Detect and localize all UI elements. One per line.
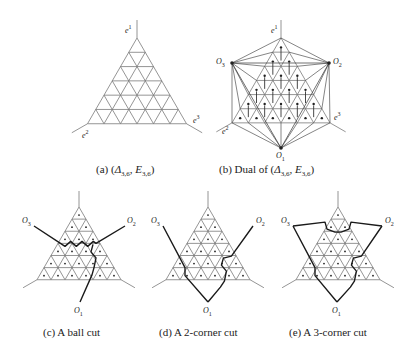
label-O2-c: O2 <box>127 216 136 227</box>
cell-dot <box>302 275 304 277</box>
label-e2-a: e2 <box>82 129 89 140</box>
ray-e2 <box>282 280 296 288</box>
grid-edge <box>72 219 107 280</box>
grid-edge <box>44 268 51 280</box>
grid-edge <box>366 268 373 280</box>
dual-vertex <box>255 117 257 119</box>
cell-dot <box>106 263 108 265</box>
cell-dot <box>85 275 87 277</box>
cell-dot <box>200 275 202 277</box>
cell-dot <box>207 263 209 265</box>
grid-edge <box>170 109 178 123</box>
ray-e3 <box>380 280 394 288</box>
cell-dot <box>71 275 73 277</box>
cell-dot <box>57 251 59 253</box>
dual-edge-O1 <box>281 123 314 148</box>
cell-dot <box>78 214 80 216</box>
cell-dot <box>323 238 325 240</box>
cell-dot <box>358 251 360 253</box>
dual-edge-O2 <box>297 63 329 66</box>
ray-e3 <box>187 124 203 133</box>
cell-dot <box>193 263 195 265</box>
grid-edge <box>240 109 248 123</box>
cell-dot <box>92 263 94 265</box>
cell-dot <box>78 238 80 240</box>
cell-dot <box>193 238 195 240</box>
cell-dot <box>78 263 80 265</box>
grid-edge <box>107 268 114 280</box>
grid-edge <box>96 109 104 123</box>
cell-dot <box>179 263 181 265</box>
outer-vertex-O2 <box>327 61 331 65</box>
dual-edge-O2 <box>329 63 330 123</box>
dual-vertex <box>280 103 282 105</box>
dual-vertex <box>288 60 290 62</box>
cell-dot <box>50 263 52 265</box>
cell-dot <box>57 275 59 277</box>
cell-dot <box>200 226 202 228</box>
label-O2-e: O2 <box>385 216 394 227</box>
cell-dot <box>242 275 244 277</box>
cell-dot <box>358 275 360 277</box>
cell-dot <box>207 214 209 216</box>
cell-dot <box>344 275 346 277</box>
grid-edge <box>173 268 180 280</box>
caption-c: (c) A ball cut <box>43 326 100 338</box>
label-O1-d: O1 <box>203 306 212 317</box>
cell-dot <box>214 251 216 253</box>
ray-e3 <box>250 280 264 288</box>
cell-dot <box>330 275 332 277</box>
cell-dot <box>99 275 101 277</box>
cell-dot <box>207 238 209 240</box>
ray-e2 <box>23 280 37 288</box>
cell-dot <box>71 226 73 228</box>
grid-edge <box>314 109 322 123</box>
label-e1-a: e1 <box>125 24 132 35</box>
dual-vertex <box>272 60 274 62</box>
cell-dot <box>64 238 66 240</box>
dual-vertex <box>321 117 323 119</box>
dual-vertex <box>239 117 241 119</box>
dual-edge-O1 <box>248 123 281 148</box>
label-e2-b: e2 <box>222 125 229 136</box>
cell-dot <box>200 251 202 253</box>
label-e3-a: e3 <box>193 114 200 125</box>
dual-vertex <box>280 75 282 77</box>
dual-vertex <box>272 89 274 91</box>
dual-vertex <box>304 89 306 91</box>
ray-e3 <box>330 123 346 132</box>
label-O3-b: O3 <box>216 57 225 68</box>
dual-vertex <box>304 117 306 119</box>
dual-edge <box>281 63 329 148</box>
label-O3-c: O3 <box>22 216 31 227</box>
grid-edge <box>303 268 310 280</box>
dual-edge-O2 <box>306 63 330 80</box>
cell-dot <box>365 263 367 265</box>
cell-dot <box>43 275 45 277</box>
grid-edge <box>331 219 366 280</box>
caption-d: (d) A 2-corner cut <box>159 326 238 338</box>
label-O2-b: O2 <box>333 57 342 68</box>
cell-dot <box>351 238 353 240</box>
cell-dot <box>186 251 188 253</box>
dual-vertex <box>263 103 265 105</box>
cell-dot <box>113 275 115 277</box>
grid-edge <box>104 52 145 123</box>
label-O3-d: O3 <box>151 216 160 227</box>
cell-dot <box>228 251 230 253</box>
label-e3-b: e3 <box>334 111 341 122</box>
cell-dot <box>85 226 87 228</box>
cell-dot <box>309 263 311 265</box>
cell-dot <box>99 251 101 253</box>
cell-dot <box>316 251 318 253</box>
cell-dot <box>372 275 374 277</box>
caption-a: (a) (Δ3,6, E3,6) <box>96 163 155 178</box>
grid-edge <box>51 219 86 280</box>
cell-dot <box>221 238 223 240</box>
cell-dot <box>85 251 87 253</box>
grid-edge <box>129 52 170 123</box>
dual-vertex <box>312 103 314 105</box>
dual-vertex <box>288 117 290 119</box>
label-e1-b: e1 <box>271 24 278 35</box>
dual-vertex <box>296 103 298 105</box>
